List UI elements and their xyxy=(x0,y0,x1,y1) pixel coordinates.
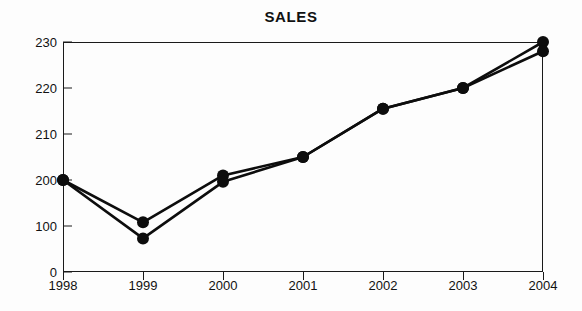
y-tick-mark xyxy=(63,180,72,181)
y-tick-mark xyxy=(63,42,72,43)
y-tick-label: 220 xyxy=(11,81,57,96)
x-tick-label: 2003 xyxy=(433,278,493,293)
y-tick-label: 200 xyxy=(11,173,57,188)
plot-frame xyxy=(63,42,543,272)
y-tick-mark xyxy=(63,88,72,89)
sales-line-chart: SALES 0100200210220230 19981999200020012… xyxy=(0,0,582,311)
x-tick-label: 1999 xyxy=(113,278,173,293)
y-tick-mark xyxy=(63,134,72,135)
chart-title: SALES xyxy=(0,8,582,25)
y-tick-mark xyxy=(63,272,72,273)
y-tick-label: 100 xyxy=(11,219,57,234)
x-tick-label: 2001 xyxy=(273,278,333,293)
y-tick-label: 230 xyxy=(11,35,57,50)
x-tick-label: 2000 xyxy=(193,278,253,293)
x-tick-label: 1998 xyxy=(33,278,93,293)
y-tick-mark xyxy=(63,226,72,227)
x-tick-label: 2002 xyxy=(353,278,413,293)
x-tick-label: 2004 xyxy=(513,278,573,293)
y-tick-label: 210 xyxy=(11,127,57,142)
